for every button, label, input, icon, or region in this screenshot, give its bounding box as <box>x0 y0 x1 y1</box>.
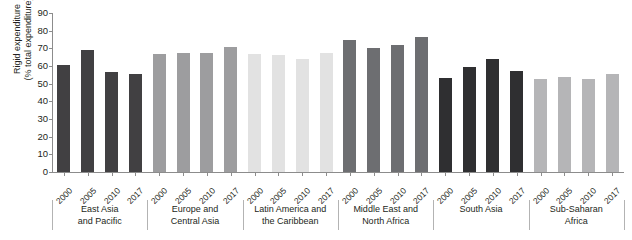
bar[interactable] <box>343 40 356 172</box>
region-labels: East Asia and PacificEurope and Central … <box>52 202 624 236</box>
region-label: Middle East and North Africa <box>338 202 433 236</box>
y-axis-tick-label: 30 <box>22 114 48 124</box>
bar-group <box>338 13 433 172</box>
bar[interactable] <box>391 45 404 172</box>
y-axis-tick-label: 20 <box>22 132 48 142</box>
region-label: Latin America and the Caribbean <box>243 202 338 236</box>
bar-chart: Rigid expenditure (% total expenditure) … <box>0 0 632 240</box>
bar[interactable] <box>558 77 571 172</box>
bar[interactable] <box>463 67 476 172</box>
bar-group <box>243 13 338 172</box>
bar[interactable] <box>272 55 285 172</box>
bar-groups <box>52 13 624 172</box>
bar[interactable] <box>200 53 213 172</box>
bar[interactable] <box>248 54 261 172</box>
bar[interactable] <box>486 59 499 172</box>
y-axis-tick-label: 70 <box>22 43 48 53</box>
bar[interactable] <box>367 48 380 172</box>
bar[interactable] <box>320 53 333 172</box>
bar-group <box>433 13 528 172</box>
bar[interactable] <box>81 50 94 172</box>
plot-area: 0102030405060708090 <box>52 13 624 172</box>
y-axis-tick-label: 90 <box>22 8 48 18</box>
bar[interactable] <box>177 53 190 172</box>
x-axis-year-labels: 2000200520102017200020052010201720002005… <box>52 176 624 202</box>
region-label: Sub-Saharan Africa <box>529 202 624 236</box>
bar[interactable] <box>415 37 428 172</box>
y-axis-tick-label: 10 <box>22 149 48 159</box>
bar[interactable] <box>606 74 619 172</box>
bar[interactable] <box>57 65 70 172</box>
bar[interactable] <box>105 72 118 172</box>
bar[interactable] <box>439 78 452 172</box>
bar-group <box>147 13 242 172</box>
bar[interactable] <box>296 59 309 172</box>
region-label: South Asia <box>433 202 528 236</box>
bar[interactable] <box>224 47 237 172</box>
bar[interactable] <box>582 79 595 172</box>
bar-group <box>529 13 624 172</box>
region-label: Europe and Central Asia <box>147 202 242 236</box>
y-axis-tick-label: 80 <box>22 26 48 36</box>
y-axis-tick-label: 50 <box>22 79 48 89</box>
bar-group <box>52 13 147 172</box>
bar[interactable] <box>510 71 523 172</box>
bar[interactable] <box>534 79 547 172</box>
bar[interactable] <box>153 54 166 172</box>
y-axis-tick-label: 0 <box>22 167 48 177</box>
region-divider <box>624 200 625 230</box>
bar[interactable] <box>129 74 142 172</box>
region-label: East Asia and Pacific <box>52 202 147 236</box>
y-axis-tick-label: 60 <box>22 61 48 71</box>
y-axis-tick-label: 40 <box>22 96 48 106</box>
